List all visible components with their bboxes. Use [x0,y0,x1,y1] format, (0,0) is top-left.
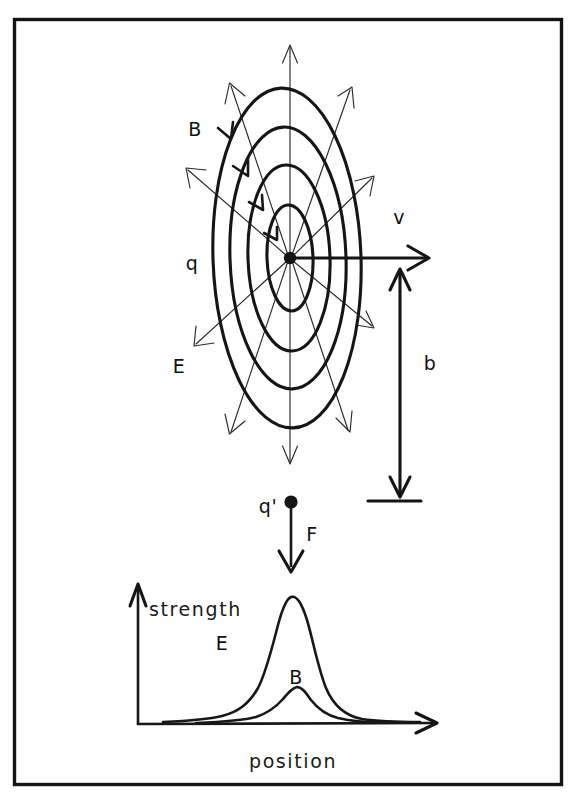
e-field-arrow-down-right [292,261,352,432]
b-curve-annotation: B [289,666,303,688]
label-electric-field: E [173,355,186,377]
label-charge: q [186,252,199,274]
physics-diagram: B q E v b q' F [0,0,578,808]
b-strength-curve [196,687,392,723]
e-curve-annotation: E [216,632,229,654]
test-charge-panel: q' F [259,495,318,572]
y-axis-label: strength [149,598,242,620]
y-axis [130,584,146,724]
b-arrowhead-loop4 [218,122,233,139]
impact-parameter-arrow [368,269,421,501]
label-test-charge: q' [259,495,277,517]
figure-border [15,20,562,785]
label-force: F [306,523,317,545]
moving-charge-panel: B q E v b [173,45,437,501]
label-magnetic-field: B [188,118,202,140]
figure-root: B q E v b q' F [0,0,578,808]
strength-position-chart: strength E B position [130,584,437,772]
e-field-arrow-left-upper [186,168,287,256]
e-field-arrow-left-lower [194,261,287,346]
label-impact-parameter: b [424,352,437,374]
e-field-arrow-down [283,261,298,464]
e-field-arrow-up [283,45,298,255]
x-axis-label: position [249,750,337,772]
label-velocity: v [393,206,405,228]
